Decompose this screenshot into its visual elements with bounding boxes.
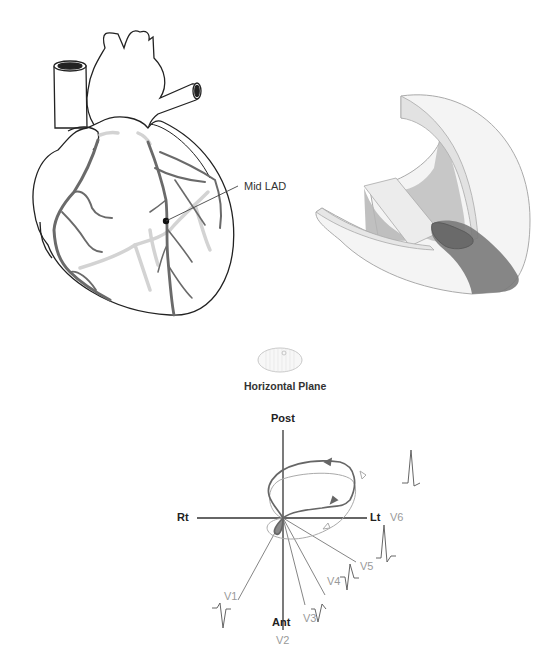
horizontal-plane-caption: Horizontal Plane [244, 380, 326, 392]
ventricle-cross-section [300, 60, 558, 320]
ecg-complexes [212, 450, 420, 628]
ecg-v4-icon [340, 564, 359, 590]
ecg-v6-icon [402, 450, 420, 486]
vector-loop-drawing [0, 400, 558, 648]
infarct-loop [268, 459, 354, 534]
vectorcardiogram: Post Ant Rt Lt V1 V2 V3 V4 V5 V6 [0, 400, 558, 648]
lead-label-v2: V2 [276, 634, 289, 646]
lead-label-v4: V4 [327, 575, 340, 587]
lead-label-v5: V5 [360, 560, 373, 572]
axis-label-ant: Ant [272, 616, 290, 628]
ecg-v5-icon [376, 525, 396, 562]
mid-lad-label: Mid LAD [244, 180, 286, 192]
axis-label-post: Post [271, 412, 295, 424]
axis-label-lt: Lt [370, 511, 380, 523]
lead-label-v6: V6 [390, 511, 403, 523]
ecg-v1-icon [212, 603, 231, 628]
heart-drawing [0, 0, 300, 330]
lead-label-v3: V3 [303, 612, 316, 624]
torso-cross-section-icon [230, 340, 330, 380]
horizontal-plane-icon-group: Horizontal Plane [230, 340, 330, 400]
heart-illustration: Mid LAD [0, 0, 300, 330]
axis-label-rt: Rt [177, 511, 189, 523]
ventricle-drawing [300, 60, 558, 320]
lead-label-v1: V1 [224, 590, 237, 602]
lead-lines [238, 518, 356, 605]
